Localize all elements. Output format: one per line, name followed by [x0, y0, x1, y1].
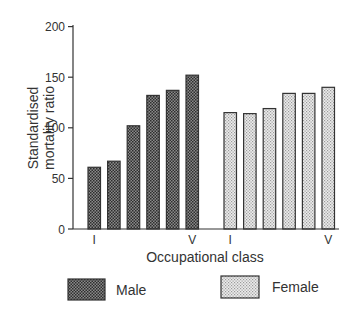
y-tick-label: 50: [52, 172, 66, 186]
female-bar: [224, 113, 237, 229]
x-tick-label: V: [324, 233, 332, 247]
y-axis-ticks: 050100150200: [45, 20, 73, 236]
y-tick-label: 150: [45, 71, 65, 85]
male-bar: [186, 75, 199, 229]
bars: [88, 75, 335, 229]
x-axis-label: Occupational class: [146, 249, 264, 265]
y-tick-label: 200: [45, 20, 65, 34]
female-bar: [322, 87, 335, 229]
legend: Male Female: [68, 276, 319, 300]
y-tick-label: 100: [45, 121, 65, 135]
female-bar: [263, 109, 276, 229]
male-bar: [88, 167, 101, 229]
male-bar: [127, 126, 140, 229]
svg-text:Standardised: Standardised: [25, 87, 41, 170]
legend-female-label: Female: [272, 279, 319, 295]
female-bar: [244, 114, 257, 229]
x-tick-label: I: [229, 233, 232, 247]
x-axis-ticks: IVIV: [93, 233, 333, 247]
x-tick-label: V: [188, 233, 196, 247]
x-tick-label: I: [93, 233, 96, 247]
male-bar: [108, 161, 121, 229]
legend-female-swatch: [221, 276, 259, 298]
male-bar: [147, 95, 160, 229]
y-tick-label: 0: [58, 223, 65, 237]
mortality-bar-chart: Standardised mortality ratio 05010015020…: [0, 0, 352, 318]
female-bar: [283, 93, 296, 229]
legend-male-swatch: [68, 279, 105, 300]
female-bar: [302, 93, 315, 229]
legend-male-label: Male: [116, 282, 147, 298]
male-bar: [166, 90, 179, 229]
